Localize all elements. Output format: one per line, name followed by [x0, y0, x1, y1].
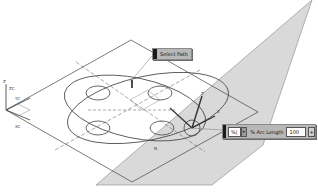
n-handle-label: N — [154, 146, 157, 151]
arc-length-input[interactable]: 100 — [286, 127, 306, 137]
yc-axis-label: YC — [14, 96, 20, 101]
z-handle-label: Z — [201, 91, 204, 96]
grid-patch — [130, 90, 160, 110]
arc-length-input-box: %| ▾ % Arc Length 100 + — [222, 124, 316, 139]
xc-axis-label: XC — [15, 124, 20, 129]
x-handle-label: X — [217, 109, 220, 114]
datum-plane[interactable] — [96, 0, 312, 185]
arc-length-label: % Arc Length — [247, 129, 286, 135]
select-path-tooltip: Select Path — [152, 48, 192, 60]
drag-grip[interactable] — [223, 125, 226, 138]
mode-select[interactable]: %| — [228, 127, 240, 137]
z-axis-label: Z — [3, 79, 6, 84]
cad-viewport[interactable]: Z X N Z ZC YC XC — [0, 0, 318, 192]
select-path-label: Select Path — [157, 51, 191, 57]
zc-axis-label: ZC — [9, 86, 15, 91]
stepper-icon[interactable]: + — [308, 127, 315, 137]
leader-line — [130, 56, 152, 82]
chevron-down-icon[interactable]: ▾ — [241, 127, 248, 137]
small-ellipse[interactable] — [86, 86, 110, 100]
centerline — [76, 62, 205, 152]
